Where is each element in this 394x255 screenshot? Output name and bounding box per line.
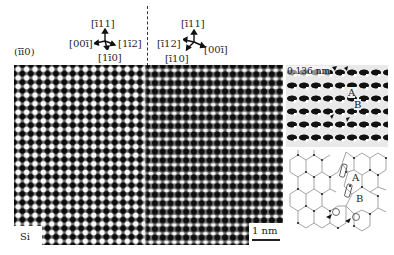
left-direction-left: [00ī] — [69, 38, 93, 49]
hrtem-main-image: Si 1 nm — [14, 65, 283, 245]
scale-bar-label: 1 nm — [252, 225, 277, 236]
scale-bar — [252, 239, 280, 241]
right-axes-icon — [183, 29, 209, 51]
left-direction-right: [1ī2] — [118, 38, 142, 49]
right-grain-lattice — [145, 65, 283, 245]
diagram-marker-b: B — [356, 193, 363, 204]
grain-boundary — [143, 65, 147, 245]
right-direction-left: [ī12] — [157, 38, 181, 49]
atomic-structure-diagram: A B — [286, 150, 388, 236]
material-label: Si — [20, 231, 30, 242]
boundary-divider-line — [147, 6, 148, 66]
inset-arrows — [286, 65, 388, 147]
left-direction-down: [1ī0] — [98, 52, 122, 63]
right-direction-up: [ī11] — [181, 18, 205, 29]
left-axes-icon — [94, 28, 120, 50]
plane-label-left: (īī0) — [14, 46, 35, 57]
right-direction-down: [ī10] — [165, 53, 189, 64]
diagram-marker-a: A — [351, 172, 360, 183]
left-grain-lattice — [14, 65, 145, 245]
hrtem-inset: 0.136 nm A B — [286, 65, 388, 147]
